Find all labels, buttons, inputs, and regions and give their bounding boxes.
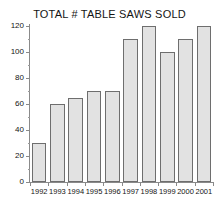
x-axis-tick-label: 2000 xyxy=(177,188,194,196)
bar xyxy=(160,52,175,182)
y-axis-tick-label: 80 xyxy=(15,74,24,82)
bar xyxy=(105,91,120,182)
bar xyxy=(197,26,212,182)
x-axis-tick xyxy=(140,182,141,186)
x-axis-tick-label: 1995 xyxy=(86,188,103,196)
x-axis-tick-label: 1994 xyxy=(67,188,84,196)
x-axis-tick-label: 1993 xyxy=(49,188,66,196)
y-axis-tick-label: 20 xyxy=(15,152,24,160)
bar xyxy=(68,98,83,183)
y-axis-tick-label: 60 xyxy=(15,100,24,108)
bar xyxy=(32,143,47,182)
bar xyxy=(178,39,193,182)
x-axis-tick xyxy=(158,182,159,186)
bar xyxy=(50,104,65,182)
y-axis-tick-label: 40 xyxy=(15,126,24,134)
chart-title: TOTAL # TABLE SAWS SOLD xyxy=(0,8,219,20)
x-axis-tick-label: 1998 xyxy=(141,188,158,196)
bar xyxy=(87,91,102,182)
x-axis-tick xyxy=(122,182,123,186)
x-axis-tick-label: 1996 xyxy=(104,188,121,196)
bar xyxy=(142,26,157,182)
bar-chart: TOTAL # TABLE SAWS SOLD 020406080100120 … xyxy=(0,0,219,208)
x-axis-tick xyxy=(195,182,196,186)
x-axis-tick-label: 2001 xyxy=(196,188,213,196)
x-axis-tick-label: 1997 xyxy=(122,188,139,196)
bar xyxy=(123,39,138,182)
x-axis-tick-label: 1999 xyxy=(159,188,176,196)
x-axis-tick xyxy=(48,182,49,186)
x-axis-tick xyxy=(30,182,31,186)
bars-layer xyxy=(30,26,213,182)
x-axis-tick-label: 1992 xyxy=(31,188,48,196)
y-axis-tick-label: 0 xyxy=(20,178,24,186)
plot-area: 020406080100120 xyxy=(30,26,213,182)
x-axis-tick xyxy=(67,182,68,186)
x-axis-tick xyxy=(213,182,214,186)
x-axis-tick xyxy=(103,182,104,186)
x-axis-tick xyxy=(85,182,86,186)
y-axis-tick-label: 120 xyxy=(11,22,24,30)
x-axis-tick xyxy=(176,182,177,186)
y-axis-tick-label: 100 xyxy=(11,48,24,56)
